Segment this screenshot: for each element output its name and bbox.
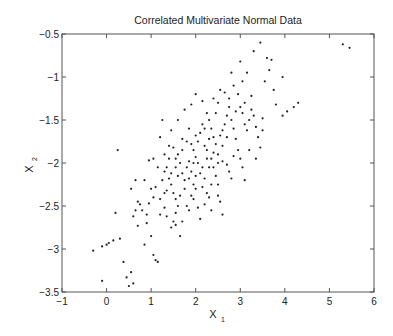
- data-point: [197, 207, 199, 209]
- y-tick-label: −2: [48, 158, 60, 169]
- data-point: [226, 136, 228, 138]
- data-point: [181, 220, 183, 222]
- data-point: [257, 136, 259, 138]
- data-point: [175, 212, 177, 214]
- data-point: [215, 175, 217, 177]
- data-point: [179, 195, 181, 197]
- data-point: [159, 136, 161, 138]
- data-point: [297, 102, 299, 104]
- data-point: [253, 115, 255, 117]
- x-tick-label: 1: [148, 296, 154, 307]
- data-point: [181, 149, 183, 151]
- data-point: [179, 162, 181, 164]
- chart-title: Correlated Multivariate Normal Data: [134, 14, 302, 26]
- data-point: [239, 60, 241, 62]
- data-point: [212, 97, 214, 99]
- data-point: [132, 215, 134, 217]
- data-point: [146, 214, 148, 216]
- data-point: [172, 220, 174, 222]
- data-point: [197, 162, 199, 164]
- data-point: [101, 245, 103, 247]
- data-point: [168, 177, 170, 179]
- data-point: [192, 149, 194, 151]
- data-point: [155, 186, 157, 188]
- data-point: [239, 158, 241, 160]
- data-point: [112, 239, 114, 241]
- data-point: [175, 158, 177, 160]
- data-point: [233, 85, 235, 87]
- data-point: [235, 110, 237, 112]
- data-point: [92, 250, 94, 252]
- data-point: [190, 195, 192, 197]
- data-point: [204, 145, 206, 147]
- data-point: [126, 276, 128, 278]
- data-point: [210, 183, 212, 185]
- data-point: [230, 119, 232, 121]
- y-axis-label-subscript: 2: [31, 157, 38, 161]
- data-point: [241, 80, 243, 82]
- y-axis-label-text: X: [23, 165, 35, 173]
- data-point: [177, 119, 179, 121]
- data-point: [233, 128, 235, 130]
- data-point: [188, 160, 190, 162]
- data-point: [150, 235, 152, 237]
- data-point: [188, 209, 190, 211]
- data-point: [250, 95, 252, 97]
- data-point: [219, 201, 221, 203]
- x-axis-label-subscript: 1: [221, 316, 225, 323]
- data-point: [235, 138, 237, 140]
- data-point: [132, 282, 134, 284]
- data-point: [253, 50, 255, 52]
- data-point: [208, 166, 210, 168]
- data-point: [230, 72, 232, 74]
- data-point: [217, 183, 219, 185]
- data-point: [217, 153, 219, 155]
- data-point: [262, 129, 264, 131]
- data-point: [146, 222, 148, 224]
- data-point: [148, 159, 150, 161]
- data-point: [264, 80, 266, 82]
- data-point: [152, 196, 154, 198]
- data-point: [221, 160, 223, 162]
- data-point: [201, 100, 203, 102]
- data-point: [199, 132, 201, 134]
- data-point: [221, 129, 223, 131]
- x-tick-label: −1: [56, 296, 68, 307]
- data-point: [170, 172, 172, 174]
- data-point: [228, 106, 230, 108]
- data-point: [141, 209, 143, 211]
- data-point: [201, 123, 203, 125]
- data-point: [172, 146, 174, 148]
- data-point: [101, 280, 103, 282]
- data-point: [197, 140, 199, 142]
- data-point: [226, 164, 228, 166]
- data-point: [177, 175, 179, 177]
- data-point: [206, 192, 208, 194]
- data-point: [204, 203, 206, 205]
- data-point: [215, 112, 217, 114]
- data-point: [159, 198, 161, 200]
- data-point: [226, 115, 228, 117]
- data-point: [137, 225, 139, 227]
- data-point: [241, 112, 243, 114]
- data-point: [163, 171, 165, 173]
- data-point: [201, 166, 203, 168]
- data-point: [230, 177, 232, 179]
- data-point: [143, 179, 145, 181]
- data-point: [139, 203, 141, 205]
- data-point: [186, 205, 188, 207]
- data-point: [212, 166, 214, 168]
- data-point: [233, 155, 235, 157]
- data-point: [208, 138, 210, 140]
- data-point: [157, 261, 159, 263]
- data-point: [237, 93, 239, 95]
- data-point: [130, 271, 132, 273]
- data-point: [199, 172, 201, 174]
- data-point: [175, 198, 177, 200]
- data-point: [163, 192, 165, 194]
- data-point: [268, 69, 270, 71]
- data-point: [175, 166, 177, 168]
- data-point: [244, 123, 246, 125]
- data-point: [119, 238, 121, 240]
- data-point: [195, 188, 197, 190]
